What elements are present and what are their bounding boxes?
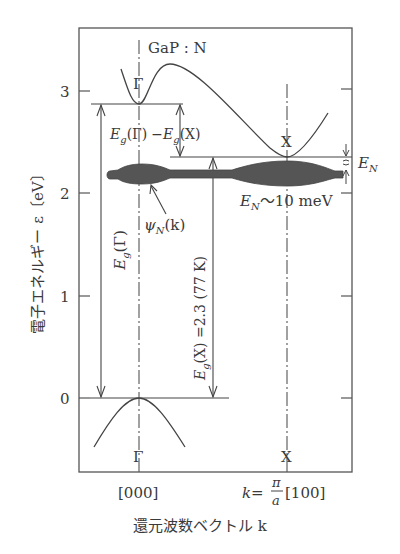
x-point-pi: π [271,475,281,490]
x-top-label: X [281,133,292,151]
psi-label: ψN(k) [144,216,185,236]
y-axis-label: 電子エネルギー ε〔eV〕 [29,166,47,333]
en-label: EN [357,154,379,174]
x-bottom-label: X [281,448,292,466]
gamma-point-label: [000] [118,484,158,502]
x-point-label: k= π a [100] [242,475,325,508]
gamma-bottom-label: Γ [133,448,143,466]
en-arrows [343,144,349,184]
band-diagram: GaP : N Γ X Γ X 3 2 1 0 電子エネルギー ε〔eV〕 Eg… [0,0,400,554]
psi-pointer-line [151,186,166,214]
eg-x-arrow [209,158,217,397]
en-value-label: EN〜10 meV [239,192,334,212]
nitrogen-wavefunction-blob [107,161,343,186]
x-axis-label: 還元波数ベクトル k [133,517,268,535]
y-ticks-right [341,89,352,398]
psi-pointer-arrowhead [150,185,157,194]
y-tick-2: 2 [60,185,70,203]
eg-difference-label: Eg(Γ)−Eg(X) [109,126,201,145]
y-ticks-left [79,91,90,398]
y-tick-0: 0 [60,390,70,408]
conduction-band-curve [121,64,328,157]
gamma-top-label: Γ [133,75,143,93]
eg-x-label: Eg(X) =2.3 (77 K) [192,256,211,381]
x-point-direction: [100] [285,484,325,502]
x-point-a: a [272,493,280,508]
x-point-prefix: k= [242,484,264,502]
eg-gamma-arrow [97,105,105,397]
y-tick-3: 3 [60,83,70,101]
material-title: GaP : N [148,39,207,57]
y-tick-1: 1 [60,288,70,306]
eg-gamma-label: Eg(Γ) [111,230,131,270]
